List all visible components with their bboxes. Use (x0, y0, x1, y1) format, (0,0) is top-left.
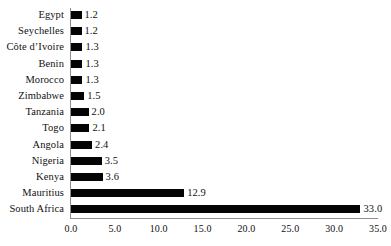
bar-row: Togo2.1 (0, 121, 384, 135)
category-label: Egypt (0, 8, 64, 22)
x-tick-label: 5.0 (95, 222, 135, 236)
bar (71, 92, 84, 100)
category-label: South Africa (0, 202, 64, 216)
bar-value-label: 2.4 (95, 138, 108, 152)
bar-value-label: 2.1 (92, 121, 105, 135)
category-label: Togo (0, 121, 64, 135)
x-tick-label: 20.0 (226, 222, 266, 236)
bar-value-label: 1.5 (87, 89, 100, 103)
bar (71, 189, 184, 197)
bar (71, 27, 82, 35)
bar-row: Seychelles1.2 (0, 24, 384, 38)
category-label: Nigeria (0, 154, 64, 168)
bar (71, 124, 89, 132)
x-axis-line (70, 218, 378, 219)
category-label: Kenya (0, 170, 64, 184)
bar-row: Nigeria3.5 (0, 154, 384, 168)
x-tick-label: 25.0 (270, 222, 310, 236)
x-tick-label: 35.0 (358, 222, 391, 236)
bar-row: South Africa33.0 (0, 202, 384, 216)
bar-value-label: 12.9 (187, 186, 206, 200)
category-label: Angola (0, 138, 64, 152)
bar-row: Egypt1.2 (0, 8, 384, 22)
bar (71, 76, 82, 84)
bar-value-label: 1.2 (85, 8, 98, 22)
bar-value-label: 3.5 (105, 154, 118, 168)
bar (71, 205, 360, 213)
bar (71, 43, 82, 51)
bar-value-label: 2.0 (92, 105, 105, 119)
category-label: Zimbabwe (0, 89, 64, 103)
x-tick-label: 15.0 (183, 222, 223, 236)
bar (71, 141, 92, 149)
category-label: Mauritius (0, 186, 64, 200)
x-tick-label: 30.0 (314, 222, 354, 236)
category-label: Morocco (0, 73, 64, 87)
bar (71, 173, 103, 181)
x-tick-label: 0.0 (51, 222, 91, 236)
bar-row: Tanzania2.0 (0, 105, 384, 119)
bar (71, 60, 82, 68)
bar-row: Angola2.4 (0, 138, 384, 152)
bar-row: Benin1.3 (0, 57, 384, 71)
x-tick-label: 10.0 (139, 222, 179, 236)
bar-row: Morocco1.3 (0, 73, 384, 87)
bar-value-label: 3.6 (106, 170, 119, 184)
bar (71, 11, 82, 19)
bar (71, 108, 89, 116)
category-label: Benin (0, 57, 64, 71)
bar (71, 157, 102, 165)
bar-value-label: 1.2 (85, 24, 98, 38)
category-label: Côte d’Ivoire (0, 40, 64, 54)
bar-value-label: 33.0 (363, 202, 382, 216)
bar-row: Côte d’Ivoire1.3 (0, 40, 384, 54)
bar-row: Mauritius12.9 (0, 186, 384, 200)
bar-value-label: 1.3 (85, 40, 98, 54)
bar-value-label: 1.3 (85, 73, 98, 87)
category-label: Seychelles (0, 24, 64, 38)
category-label: Tanzania (0, 105, 64, 119)
bar-row: Zimbabwe1.5 (0, 89, 384, 103)
bar-value-label: 1.3 (85, 57, 98, 71)
bar-row: Kenya3.6 (0, 170, 384, 184)
